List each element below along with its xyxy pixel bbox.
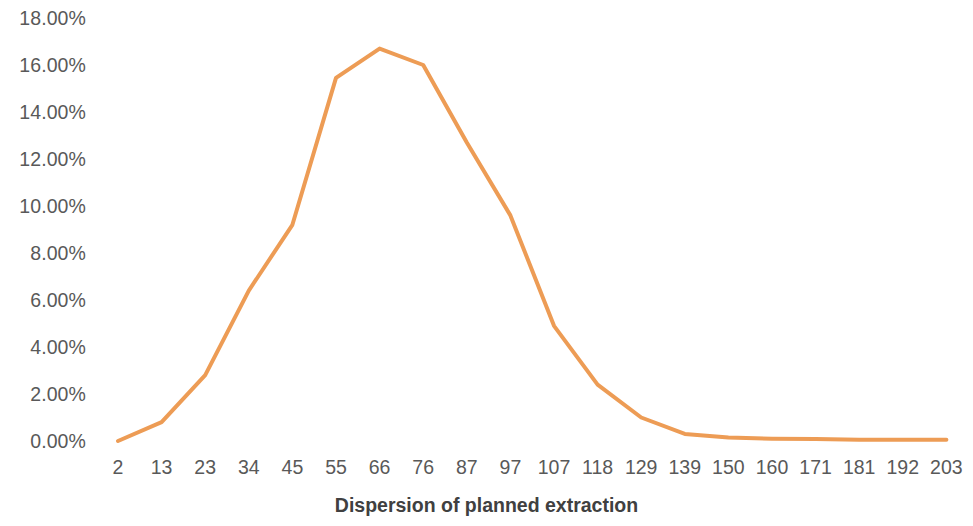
plot-area: [95, 0, 973, 460]
y-tick-label: 14.00%: [19, 101, 86, 124]
y-tick-label: 4.00%: [30, 336, 86, 359]
x-tick-label: 2: [113, 456, 124, 479]
x-tick-label: 76: [412, 456, 434, 479]
x-tick-label: 55: [325, 456, 347, 479]
x-axis-title: Dispersion of planned extraction: [0, 494, 973, 517]
series-polyline: [118, 49, 946, 441]
x-tick-label: 23: [194, 456, 216, 479]
x-axis: 2132334455566768797107118129139150160171…: [95, 456, 973, 490]
x-tick-label: 181: [843, 456, 876, 479]
x-tick-label: 129: [625, 456, 658, 479]
x-tick-label: 118: [582, 456, 613, 479]
x-tick-label: 45: [282, 456, 304, 479]
line-chart: 18.00%16.00%14.00%12.00%10.00%8.00%6.00%…: [0, 0, 973, 526]
y-tick-label: 0.00%: [30, 430, 86, 453]
y-tick-label: 16.00%: [19, 54, 86, 77]
y-tick-label: 12.00%: [19, 148, 86, 171]
x-tick-label: 66: [369, 456, 391, 479]
y-tick-label: 8.00%: [30, 242, 86, 265]
x-tick-label: 87: [456, 456, 478, 479]
x-tick-label: 13: [151, 456, 173, 479]
y-tick-label: 6.00%: [30, 289, 86, 312]
y-tick-label: 18.00%: [19, 7, 86, 30]
x-tick-label: 139: [669, 456, 702, 479]
y-tick-label: 2.00%: [30, 383, 86, 406]
x-tick-label: 160: [756, 456, 789, 479]
y-tick-label: 10.00%: [19, 195, 86, 218]
x-tick-label: 171: [799, 456, 832, 479]
x-tick-label: 34: [238, 456, 260, 479]
x-tick-label: 97: [500, 456, 522, 479]
series-line: [95, 0, 973, 460]
x-tick-label: 192: [887, 456, 920, 479]
x-tick-label: 150: [712, 456, 745, 479]
x-tick-label: 107: [538, 456, 571, 479]
x-tick-label: 203: [930, 456, 963, 479]
y-axis: 18.00%16.00%14.00%12.00%10.00%8.00%6.00%…: [0, 0, 95, 460]
